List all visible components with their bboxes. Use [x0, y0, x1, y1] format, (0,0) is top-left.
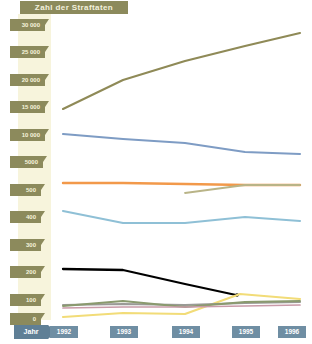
x-tick-1992: 1992: [50, 326, 78, 338]
y-tick-10000: 10 000: [10, 129, 45, 141]
y-tick-300: 300: [10, 239, 41, 251]
series-black-declining: [63, 269, 239, 297]
y-tick-200: 200: [10, 266, 41, 278]
x-tick-1995: 1995: [232, 326, 260, 338]
y-tick-25000: 25 000: [10, 46, 45, 58]
y-tick-30000: 30 000: [10, 19, 45, 31]
series-olive-rising: [63, 33, 300, 109]
y-tick-15000: 15 000: [10, 101, 45, 113]
y-tick-5000: 5000: [10, 156, 43, 168]
series-pale-olive-short: [185, 185, 300, 193]
x-tick-1994: 1994: [172, 326, 200, 338]
y-tick-100: 100: [10, 294, 41, 306]
y-tick-0: 0: [10, 313, 41, 325]
y-tick-400: 400: [10, 211, 41, 223]
y-tick-500: 500: [10, 184, 41, 196]
chart-root: Zahl der Straftaten 30 000 25 000 20 000…: [0, 0, 312, 344]
series-light-blue: [63, 211, 300, 223]
y-tick-20000: 20 000: [10, 74, 45, 86]
chart-title: Zahl der Straftaten: [20, 1, 128, 14]
x-tick-1993: 1993: [110, 326, 138, 338]
series-steel-blue-declining: [63, 134, 300, 154]
x-axis-label-jahr: Jahr: [14, 325, 48, 339]
x-tick-1996: 1996: [278, 326, 306, 338]
